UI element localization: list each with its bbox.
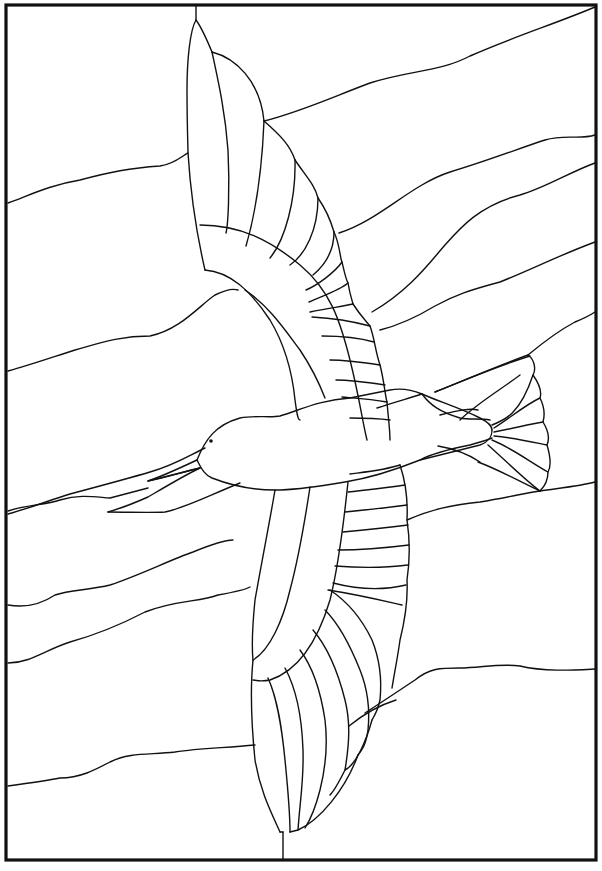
upper-wing bbox=[187, 5, 390, 440]
bird-beak bbox=[108, 460, 240, 512]
bird bbox=[108, 5, 550, 860]
tail bbox=[377, 355, 550, 491]
bird-eye bbox=[209, 439, 213, 443]
bird-body bbox=[108, 389, 492, 512]
lower-wing bbox=[252, 465, 410, 860]
frame-border bbox=[6, 5, 596, 860]
stained-glass-pattern: Stained glass pattern: bird in flight bbox=[0, 0, 602, 871]
sky-bands bbox=[8, 7, 595, 786]
